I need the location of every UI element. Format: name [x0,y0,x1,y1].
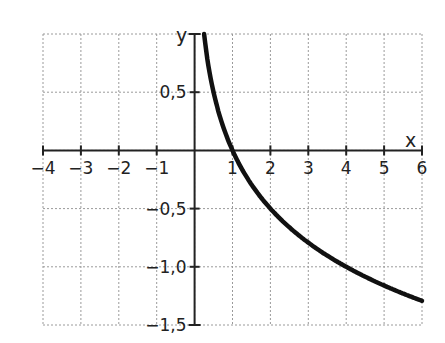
x-tick-label: 4 [341,158,352,178]
x-tick-label: −1 [144,158,169,178]
x-tick-label: −3 [68,158,93,178]
y-tick-label: −1,5 [145,315,186,335]
y-axis-label: y [176,24,187,46]
function-graph: −4−3−2−11234560,5−0,5−1,0−1,5 x y [0,0,445,343]
x-tick-label: 2 [265,158,276,178]
x-tick-label: 3 [303,158,314,178]
grid-lines [43,34,422,325]
x-tick-label: −2 [106,158,131,178]
y-tick-label: −1,0 [145,257,186,277]
y-tick-label: −0,5 [145,199,186,219]
x-tick-label: −4 [30,158,55,178]
x-axis-label: x [405,129,416,151]
x-tick-label: 5 [379,158,390,178]
x-tick-label: 6 [417,158,428,178]
y-tick-label: 0,5 [160,82,187,102]
